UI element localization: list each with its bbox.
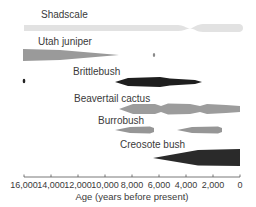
vegetation-history-chart: Shadscale Utah juniper Brittlebush Beave…	[0, 0, 256, 207]
label-creosote-bush: Creosote bush	[120, 139, 185, 150]
x-axis: 16,000 14,000 12,000 10,000 8,000 6,000 …	[10, 175, 242, 203]
bar-brittlebush	[115, 77, 202, 87]
bar-utah-juniper	[23, 49, 119, 61]
bar-beavertail-cactus	[119, 104, 240, 115]
label-beavertail-cactus: Beavertail cactus	[74, 93, 150, 104]
tick-label-8000: 8,000	[121, 180, 144, 190]
tick-label-14000: 14,000	[37, 180, 65, 190]
tick-label-4000: 4,000	[175, 180, 198, 190]
tick-label-16000: 16,000	[10, 180, 38, 190]
bar-burrobush-segment-1	[115, 127, 154, 134]
tick-label-6000: 6,000	[148, 180, 171, 190]
tick-label-2000: 2,000	[202, 180, 225, 190]
dot-brittlebush	[23, 79, 26, 83]
bar-creosote-bush	[153, 149, 240, 166]
label-shadscale: Shadscale	[41, 9, 88, 20]
label-brittlebush: Brittlebush	[73, 66, 120, 77]
label-burrobush: Burrobush	[98, 115, 144, 126]
bar-shadscale	[24, 24, 243, 32]
tick-label-10000: 10,000	[91, 180, 119, 190]
tick-label-12000: 12,000	[64, 180, 92, 190]
tick-label-0: 0	[237, 180, 242, 190]
dot-utah-juniper	[153, 53, 155, 57]
x-axis-title: Age (years before present)	[75, 191, 188, 202]
label-utah-juniper: Utah juniper	[38, 36, 93, 47]
bar-burrobush-segment-2	[177, 127, 222, 134]
